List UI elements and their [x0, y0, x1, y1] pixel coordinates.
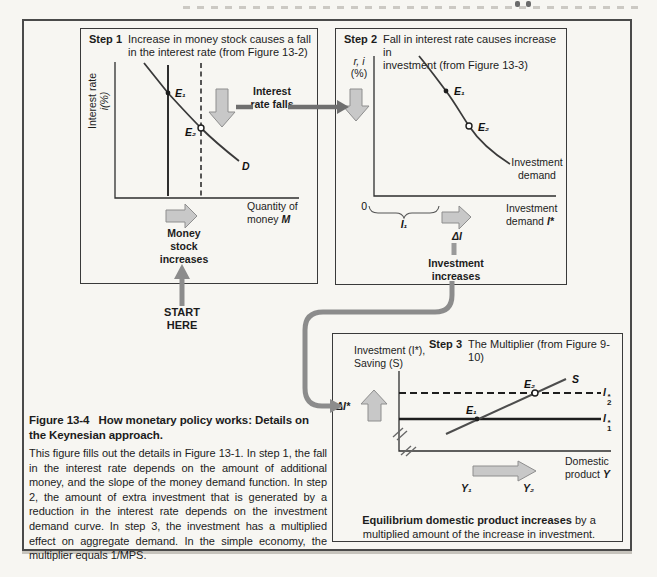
point-e2-label: E₂	[478, 121, 489, 133]
start-here-label: START HERE	[156, 306, 208, 332]
interest-rate-falls-label: Interest rate falls	[243, 85, 301, 111]
i1-span-brace	[369, 206, 439, 218]
i1-span-label: I₁	[401, 218, 408, 230]
step3-x-axis-label: Domestic productY	[565, 455, 610, 481]
point-e1-dot	[475, 417, 480, 422]
caption-body: This figure fills out the details in Fig…	[29, 446, 327, 563]
investment-variable: I*	[547, 215, 554, 227]
money-stock-increases-label: Money stock increases	[153, 227, 215, 266]
x-axis-label-line1: Investment	[506, 202, 557, 215]
point-e1-label: E₁	[175, 87, 186, 99]
right-block-arrow-icon	[442, 206, 471, 229]
axis-break-marks	[393, 428, 416, 456]
point-e2-circle	[466, 123, 472, 129]
figure-caption: Figure 13-4 How monetary policy works: D…	[29, 413, 327, 563]
point-e2-circle	[532, 390, 538, 396]
point-e1-label: E₁	[466, 404, 477, 416]
step1-panel: Step 1 Increase in money stock causes a …	[80, 28, 318, 284]
x-axis-label-line2: demandI*	[506, 215, 557, 228]
saving-line-label: S	[572, 373, 579, 385]
step3-panel: Step 3 The Multiplier (from Figure 9-10)…	[332, 333, 623, 542]
x-axis-label-line2: moneyM	[247, 213, 298, 226]
step2-x-axis-label: Investment demandI*	[506, 202, 557, 228]
equilibrium-note: Equilibrium domestic product increases b…	[341, 499, 617, 541]
caption-title: Figure 13-4 How monetary policy works: D…	[29, 413, 327, 442]
x-axis-label-line2: productY	[565, 468, 610, 481]
right-block-arrow-icon	[473, 461, 536, 481]
axes	[399, 371, 611, 451]
x-axis-label-line1: Quantity of	[247, 200, 298, 213]
point-e2-circle	[198, 125, 204, 131]
delta-i-star-label: ΔI*	[336, 400, 350, 413]
point-e1-label: E₁	[454, 85, 465, 97]
y1-label: Y₁	[461, 482, 472, 495]
demand-curve-label: D	[242, 160, 250, 172]
i1-line-label: I*1	[603, 412, 611, 432]
point-e1-dot	[166, 91, 171, 96]
investment-demand-curve-label: Investment demand	[506, 156, 568, 182]
money-variable: M	[282, 213, 291, 225]
step2-panel: Step 2 Fall in interest rate causes incr…	[335, 28, 567, 285]
point-e2-label: E₂	[185, 126, 196, 138]
point-e2-label: E₂	[524, 378, 535, 390]
saving-line	[446, 379, 566, 434]
step1-x-axis-label: Quantity of moneyM	[247, 200, 298, 226]
down-block-arrow-icon	[209, 89, 235, 127]
cropped-text-artifact	[183, 6, 638, 9]
point-e1-dot	[444, 89, 449, 94]
down-block-arrow-icon	[343, 89, 369, 121]
product-variable: Y	[603, 468, 610, 480]
investment-demand-curve	[419, 56, 510, 164]
cropped-glyphs-artifact	[515, 1, 520, 7]
right-block-arrow-icon	[166, 204, 197, 228]
figure-13-4-page: Step 1 Increase in money stock causes a …	[0, 0, 657, 577]
origin-label: 0	[361, 200, 367, 212]
i2-line-label: I*2	[603, 386, 611, 406]
delta-i-label: ΔI	[440, 230, 474, 243]
equilibrium-note-bold: Equilibrium domestic product increases	[362, 514, 572, 526]
axes	[115, 62, 299, 198]
up-block-arrow-icon	[361, 390, 387, 421]
x-axis-label-line1: Domestic	[565, 455, 610, 468]
y2-label: Y₂	[523, 482, 534, 495]
investment-increases-label: Investment increases	[414, 257, 498, 283]
